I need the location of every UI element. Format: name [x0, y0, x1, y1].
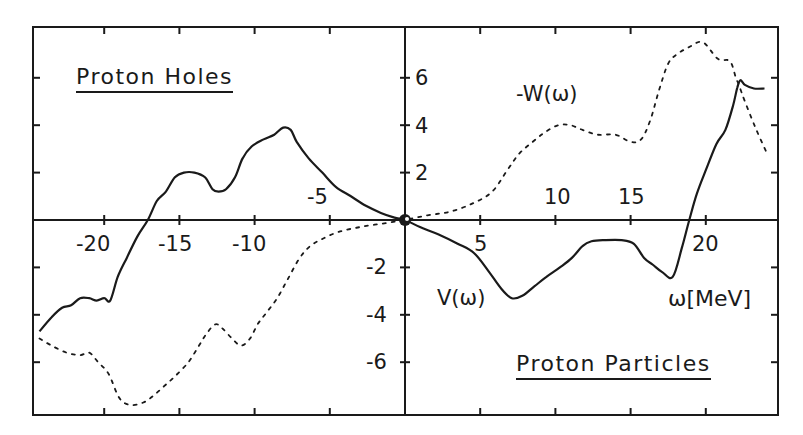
x-tick-label: -5	[307, 187, 328, 208]
label-x-unit: ω[MeV]	[668, 288, 751, 310]
label-proton-holes: Proton Holes	[76, 66, 233, 93]
y-tick-label: -6	[366, 352, 387, 373]
v-curve-solid	[40, 80, 765, 331]
x-tick-label: 15	[618, 187, 645, 208]
y-tick-label: 6	[415, 68, 428, 89]
x-tick-label: 20	[692, 234, 719, 255]
x-tick-label: -10	[232, 234, 266, 255]
y-tick-label: 2	[415, 163, 428, 184]
x-tick-label: -15	[158, 234, 192, 255]
label-w-series: -W(ω)	[516, 84, 577, 105]
x-tick-label: 5	[474, 234, 487, 255]
y-tick-label: -4	[366, 305, 387, 326]
y-tick-label: 4	[415, 116, 428, 137]
origin-marker	[399, 214, 411, 226]
x-tick-label: 10	[544, 187, 571, 208]
y-tick-label: -2	[366, 257, 387, 278]
label-v-series: V(ω)	[437, 288, 485, 309]
x-tick-label: -20	[76, 234, 110, 255]
label-proton-particles: Proton Particles	[516, 353, 711, 380]
origin-marker-hole	[405, 217, 409, 221]
